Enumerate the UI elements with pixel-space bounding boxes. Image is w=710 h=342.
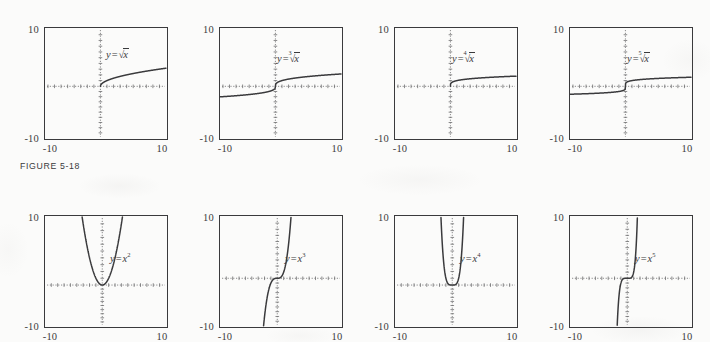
curve	[569, 77, 691, 94]
x-axis-max-label: 10	[682, 329, 693, 342]
y-axis-max-label: 10	[203, 24, 217, 35]
y-axis-min-label: -10	[24, 321, 42, 332]
x-axis-max-label: 10	[332, 329, 343, 342]
chart-panel-8: 10-10-1010y=x5	[569, 215, 693, 328]
x-axis-min-label: -10	[218, 141, 233, 154]
equation-label: y=x3	[285, 251, 306, 264]
x-axis-min-label: -10	[393, 329, 408, 342]
plot-area	[394, 27, 518, 140]
equation-label: y=x4	[460, 251, 481, 264]
y-axis-min-label: -10	[374, 133, 392, 144]
figure-panel-grid: 10-10-1010y=√x10-10-1010y=3√x10-10-1010y…	[0, 0, 710, 342]
x-axis-min-label: -10	[568, 141, 583, 154]
y-axis-max-label: 10	[203, 212, 217, 223]
equation-label: y=x2	[110, 251, 131, 264]
x-axis-min-label: -10	[568, 329, 583, 342]
x-axis-max-label: 10	[507, 329, 518, 342]
plot-area	[44, 215, 168, 328]
figure-caption: FIGURE 5-18	[20, 160, 80, 171]
y-axis-max-label: 10	[28, 212, 42, 223]
x-axis-max-label: 10	[157, 329, 168, 342]
chart-panel-1: 10-10-1010y=√x	[44, 27, 168, 140]
plot-area	[219, 215, 343, 328]
equation-label: y=3√x	[277, 53, 300, 64]
chart-panel-2: 10-10-1010y=3√x	[219, 27, 343, 140]
y-axis-min-label: -10	[549, 321, 567, 332]
equation-label: y=x5	[635, 251, 656, 264]
chart-panel-6: 10-10-1010y=x3	[219, 215, 343, 328]
x-axis-max-label: 10	[507, 141, 518, 154]
x-axis-min-label: -10	[43, 141, 58, 154]
chart-panel-4: 10-10-1010y=5√x	[569, 27, 693, 140]
plot-area	[569, 215, 693, 328]
curve	[219, 74, 341, 97]
plot-area	[44, 27, 168, 140]
equation-label: y=5√x	[627, 53, 650, 64]
x-axis-min-label: -10	[393, 141, 408, 154]
y-axis-max-label: 10	[378, 24, 392, 35]
equation-label: y=4√x	[452, 53, 475, 64]
plot-area	[394, 215, 518, 328]
y-axis-min-label: -10	[24, 133, 42, 144]
y-axis-max-label: 10	[553, 212, 567, 223]
curve	[100, 68, 166, 86]
x-axis-max-label: 10	[332, 141, 343, 154]
x-axis-min-label: -10	[218, 329, 233, 342]
y-axis-max-label: 10	[553, 24, 567, 35]
chart-panel-3: 10-10-1010y=4√x	[394, 27, 518, 140]
x-axis-min-label: -10	[43, 329, 58, 342]
chart-panel-5: 10-10-1010y=x2	[44, 215, 168, 328]
plot-area	[219, 27, 343, 140]
chart-panel-7: 10-10-1010y=x4	[394, 215, 518, 328]
y-axis-min-label: -10	[199, 321, 217, 332]
x-axis-max-label: 10	[682, 141, 693, 154]
x-axis-max-label: 10	[157, 141, 168, 154]
y-axis-min-label: -10	[374, 321, 392, 332]
y-axis-min-label: -10	[549, 133, 567, 144]
y-axis-max-label: 10	[378, 212, 392, 223]
plot-area	[569, 27, 693, 140]
y-axis-min-label: -10	[199, 133, 217, 144]
y-axis-max-label: 10	[28, 24, 42, 35]
equation-label: y=√x	[106, 49, 129, 60]
